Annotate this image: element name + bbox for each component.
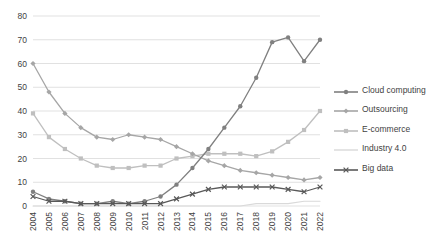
data-point-marker	[174, 144, 179, 149]
legend-swatch	[333, 142, 359, 154]
y-tick-label: 50	[18, 82, 28, 92]
series-e-commerce	[31, 109, 322, 170]
series-line	[33, 187, 320, 204]
data-point-marker	[142, 135, 147, 140]
x-tick-label: 2015	[203, 212, 213, 231]
series-line	[33, 64, 320, 180]
series-outsourcing	[30, 61, 322, 183]
x-tick-label: 2006	[60, 212, 70, 231]
data-point-marker	[238, 104, 242, 108]
data-point-marker	[344, 90, 348, 94]
data-point-marker	[302, 59, 306, 63]
data-point-marker	[158, 137, 163, 142]
data-point-marker	[302, 128, 306, 132]
legend-swatch	[333, 123, 359, 135]
series-line	[33, 201, 320, 206]
series-cloud-computing	[31, 35, 322, 206]
y-tick-label: 70	[18, 35, 28, 45]
legend-swatch	[333, 162, 359, 174]
y-tick-label: 10	[18, 177, 28, 187]
y-tick-label: 30	[18, 130, 28, 140]
data-point-marker	[47, 135, 51, 139]
data-point-marker	[270, 149, 274, 153]
y-tick-label: 60	[18, 59, 28, 69]
legend-swatch	[333, 84, 359, 96]
y-tick-label: 40	[18, 106, 28, 116]
data-point-marker	[343, 109, 348, 114]
data-point-marker	[190, 166, 194, 170]
data-point-marker	[270, 40, 274, 44]
data-point-marker	[30, 61, 35, 66]
x-tick-label: 2021	[299, 212, 309, 231]
legend-label: Outsourcing	[362, 105, 408, 114]
data-point-marker	[110, 137, 115, 142]
legend-label: Big data	[362, 164, 393, 173]
data-point-marker	[301, 177, 306, 182]
series-line	[33, 37, 320, 203]
x-tick-label: 2012	[156, 212, 166, 231]
data-point-marker	[174, 156, 178, 160]
chart-legend: Cloud computingOutsourcingE-commerceIndu…	[333, 80, 433, 178]
x-tick-label: 2009	[108, 212, 118, 231]
data-point-marker	[174, 182, 178, 186]
x-tick-label: 2013	[172, 212, 182, 231]
data-point-marker	[318, 38, 322, 42]
data-point-marker	[206, 152, 210, 156]
x-tick-label: 2007	[76, 212, 86, 231]
legend-item-big-data[interactable]: Big data	[333, 158, 433, 178]
data-point-marker	[286, 175, 291, 180]
data-point-marker	[286, 140, 290, 144]
data-point-marker	[127, 166, 131, 170]
x-tick-label: 2004	[28, 212, 38, 231]
data-point-marker	[206, 147, 210, 151]
data-point-marker	[31, 190, 35, 194]
data-point-marker	[238, 152, 242, 156]
data-point-marker	[344, 129, 348, 133]
data-point-marker	[206, 158, 211, 163]
data-point-marker	[63, 147, 67, 151]
legend-item-e-commerce[interactable]: E-commerce	[333, 119, 433, 139]
y-tick-label: 20	[18, 154, 28, 164]
legend-swatch	[333, 103, 359, 115]
data-point-marker	[254, 170, 259, 175]
data-point-marker	[31, 111, 35, 115]
line-chart: 01020304050607080 2004200520062007200820…	[0, 0, 435, 250]
data-point-marker	[158, 194, 162, 198]
legend-item-cloud-computing[interactable]: Cloud computing	[333, 80, 433, 100]
legend-label: Cloud computing	[362, 86, 426, 95]
gridlines	[33, 16, 320, 206]
x-tick-label: 2010	[124, 212, 134, 231]
data-point-marker	[95, 164, 99, 168]
data-point-marker	[79, 156, 83, 160]
x-tick-label: 2019	[267, 212, 277, 231]
data-point-marker	[111, 166, 115, 170]
legend-label: Industry 4.0	[362, 144, 406, 153]
data-point-marker	[222, 125, 226, 129]
data-point-marker	[317, 175, 322, 180]
x-tick-label: 2022	[315, 212, 325, 231]
y-tick-label: 0	[22, 201, 27, 211]
legend-item-outsourcing[interactable]: Outsourcing	[333, 100, 433, 120]
x-tick-label: 2016	[219, 212, 229, 231]
x-tick-label: 2008	[92, 212, 102, 231]
data-point-marker	[286, 35, 290, 39]
x-tick-label: 2017	[235, 212, 245, 231]
x-tick-label: 2018	[251, 212, 261, 231]
data-point-marker	[222, 152, 226, 156]
data-point-marker	[222, 163, 227, 168]
data-point-marker	[126, 132, 131, 137]
data-point-marker	[143, 164, 147, 168]
x-tick-label: 2011	[140, 212, 150, 231]
legend-item-industry-4-0[interactable]: Industry 4.0	[333, 139, 433, 159]
data-point-marker	[318, 109, 322, 113]
data-point-marker	[270, 173, 275, 178]
x-tick-label: 2005	[44, 212, 54, 231]
data-point-marker	[254, 76, 258, 80]
series-industry-4-0	[33, 201, 320, 206]
legend-label: E-commerce	[362, 125, 410, 134]
x-tick-label: 2020	[283, 212, 293, 231]
series-big-data	[31, 185, 323, 206]
y-axis-tick-labels: 01020304050607080	[18, 11, 28, 211]
x-tick-label: 2014	[187, 212, 197, 231]
y-tick-label: 80	[18, 11, 28, 21]
